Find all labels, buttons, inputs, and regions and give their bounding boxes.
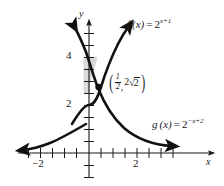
- y-axis-label: y: [79, 9, 83, 19]
- x-tick-label-2: 2: [133, 158, 139, 169]
- exponential-functions-figure: y x 4 2 −2 2 f(x)=2x+1 g(x)=2−x+2 ( 1 2 …: [0, 0, 224, 186]
- function-g-arg: (x): [160, 118, 172, 130]
- radicand: 2: [134, 77, 140, 88]
- function-label-g: g(x)=2−x+2: [152, 118, 204, 130]
- coordinate-comma: ,: [121, 82, 124, 92]
- function-f-name: f: [127, 18, 130, 30]
- function-f-equals: =: [146, 18, 152, 30]
- y-axis: [84, 22, 94, 178]
- function-label-f: f(x)=2x+1: [127, 18, 171, 30]
- right-paren: ): [141, 72, 145, 92]
- function-g-equals: =: [174, 118, 180, 130]
- curve-g-left-tail: [23, 124, 86, 150]
- x-axis-label: x: [206, 157, 210, 167]
- y-tick-label-2: 2: [66, 98, 72, 109]
- function-f-exponent: x+1: [160, 17, 171, 25]
- intersection-point-label: ( 1 2 , 2 √2 ): [108, 72, 146, 92]
- left-paren: (: [109, 72, 113, 92]
- x-axis: [18, 148, 212, 158]
- fraction-numerator: 1: [115, 73, 121, 81]
- y-tick-label-4: 4: [66, 50, 72, 61]
- radical-sign: √2: [129, 77, 140, 88]
- intersection-point-marker: [95, 84, 101, 90]
- function-f-arg: (x): [132, 18, 144, 30]
- function-g-name: g: [152, 118, 158, 130]
- x-tick-label-minus-2: −2: [32, 158, 44, 169]
- function-g-exponent: −x+2: [187, 117, 203, 125]
